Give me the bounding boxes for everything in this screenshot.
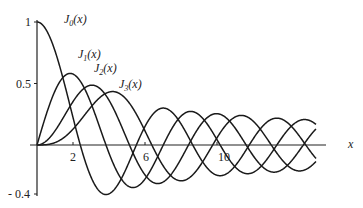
x-tick-10: 10 — [218, 150, 230, 164]
x-tick-6: 6 — [143, 150, 149, 164]
y-tick-1: 1 — [25, 15, 31, 29]
label-j0: J0(x) — [64, 12, 87, 28]
series-labels: J0(x)J1(x)J2(x)J3(x) — [64, 12, 142, 93]
x-tick-2: 2 — [70, 150, 76, 164]
curve-j2 — [37, 85, 316, 183]
curve-j1 — [37, 73, 316, 187]
bessel-chart: 2 6 10 1 0.5 - 0.4 x J0(x)J1(x)J2(x)J3(x… — [0, 0, 363, 208]
y-tick-neg0.4: - 0.4 — [8, 187, 30, 201]
y-tick-0.5: 0.5 — [16, 77, 31, 91]
label-j3: J3(x) — [119, 77, 142, 93]
x-axis-label: x — [347, 137, 354, 151]
label-j2: J2(x) — [94, 61, 117, 77]
